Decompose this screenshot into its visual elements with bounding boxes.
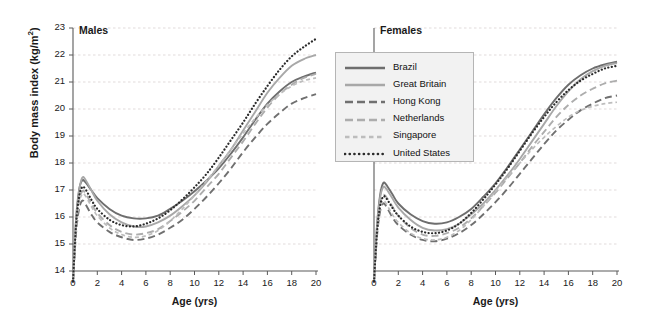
x-tick-label: 12 bbox=[510, 277, 530, 288]
legend-item-netherlands[interactable]: Netherlands bbox=[336, 109, 475, 127]
y-tick-label: 22 bbox=[47, 48, 65, 59]
legend-item-great-britain[interactable]: Great Britain bbox=[336, 74, 475, 92]
y-tick-label: 17 bbox=[47, 183, 65, 194]
x-tick-label: 10 bbox=[486, 277, 506, 288]
x-tick-label: 18 bbox=[282, 277, 302, 288]
y-tick-label: 21 bbox=[47, 75, 65, 86]
x-tick-label: 4 bbox=[413, 277, 433, 288]
x-tick-label: 20 bbox=[607, 277, 627, 288]
x-tick-label: 8 bbox=[160, 277, 180, 288]
x-tick-label: 6 bbox=[437, 277, 457, 288]
legend-swatch-icon bbox=[344, 94, 386, 106]
plot-canvas bbox=[0, 0, 645, 315]
x-tick-label: 2 bbox=[388, 277, 408, 288]
legend-swatch-icon bbox=[344, 77, 386, 89]
x-tick-label: 8 bbox=[461, 277, 481, 288]
series-line-netherlands bbox=[73, 74, 316, 282]
y-tick-label: 19 bbox=[47, 129, 65, 140]
legend-label: United States bbox=[393, 147, 450, 158]
x-tick-label: 16 bbox=[558, 277, 578, 288]
legend-item-united-states[interactable]: United States bbox=[336, 143, 475, 161]
legend-label: Great Britain bbox=[393, 78, 446, 89]
x-axis-label-females: Age (yrs) bbox=[374, 295, 617, 307]
legend-swatch-icon bbox=[344, 60, 386, 72]
legend-label: Netherlands bbox=[393, 112, 444, 123]
series-line-brazil bbox=[73, 73, 316, 282]
x-tick-label: 4 bbox=[112, 277, 132, 288]
series-line-great-britain bbox=[73, 55, 316, 282]
series-line-united-states bbox=[73, 39, 316, 282]
x-tick-label: 18 bbox=[583, 277, 603, 288]
series-line-singapore bbox=[73, 78, 316, 282]
x-tick-label: 10 bbox=[185, 277, 205, 288]
x-tick-label: 16 bbox=[257, 277, 277, 288]
legend-item-brazil[interactable]: Brazil bbox=[336, 57, 475, 75]
x-tick-label: 2 bbox=[87, 277, 107, 288]
x-tick-label: 6 bbox=[136, 277, 156, 288]
legend-swatch-icon bbox=[344, 129, 386, 141]
x-tick-label: 20 bbox=[306, 277, 326, 288]
y-tick-label: 15 bbox=[47, 237, 65, 248]
y-tick-label: 23 bbox=[47, 21, 65, 32]
x-tick-label: 14 bbox=[233, 277, 253, 288]
x-tick-label: 12 bbox=[209, 277, 229, 288]
legend: BrazilGreat BritainHong KongNetherlandsS… bbox=[335, 52, 474, 162]
legend-label: Hong Kong bbox=[393, 95, 441, 106]
bmi-figure: Body mass index (kg/m2) Males Females Ag… bbox=[0, 0, 645, 315]
legend-swatch-icon bbox=[344, 146, 386, 158]
y-tick-label: 16 bbox=[47, 210, 65, 221]
y-tick-label: 20 bbox=[47, 102, 65, 113]
legend-item-hong-kong[interactable]: Hong Kong bbox=[336, 91, 475, 109]
x-tick-label: 14 bbox=[534, 277, 554, 288]
legend-item-singapore[interactable]: Singapore bbox=[336, 126, 475, 144]
panel-title-females: Females bbox=[380, 24, 422, 36]
legend-label: Brazil bbox=[393, 61, 417, 72]
x-tick-label: 0 bbox=[364, 277, 384, 288]
y-tick-label: 14 bbox=[47, 264, 65, 275]
x-tick-label: 0 bbox=[63, 277, 83, 288]
x-axis-label-males: Age (yrs) bbox=[73, 295, 316, 307]
legend-swatch-icon bbox=[344, 112, 386, 124]
panel-title-males: Males bbox=[79, 24, 108, 36]
y-tick-label: 18 bbox=[47, 156, 65, 167]
legend-label: Singapore bbox=[393, 129, 436, 140]
